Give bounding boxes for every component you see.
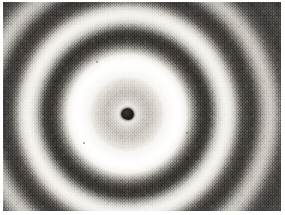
plate-speck (83, 142, 85, 144)
diffraction-figure: Concentric diffraction rings with dark c… (0, 0, 285, 215)
film-grain-coarse-texture (3, 2, 281, 211)
beam-stop-spot (121, 108, 134, 120)
plate-speck (151, 45, 153, 47)
diffraction-plate (3, 2, 281, 211)
plate-speck (186, 132, 188, 134)
plate-speck (96, 61, 98, 63)
plate-speck (64, 71, 66, 73)
